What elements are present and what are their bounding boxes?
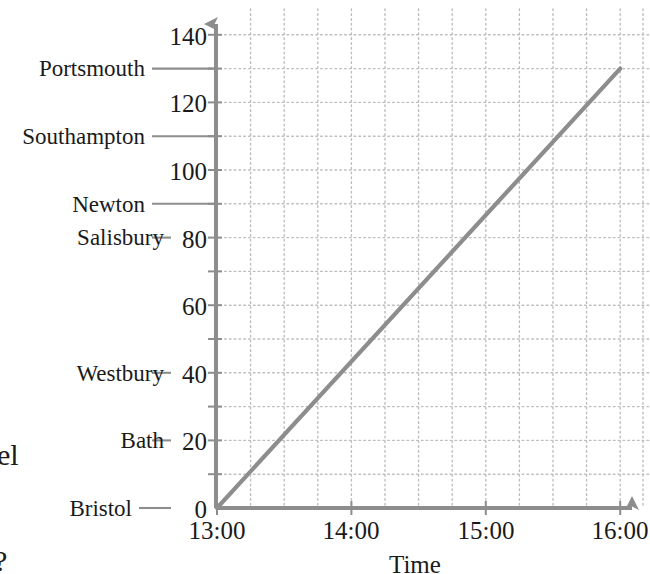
y-tick-label-60: 60 <box>182 294 207 319</box>
chart-canvas: 0 20 40 60 80 100 120 140 Portsmouth Sou… <box>0 0 650 574</box>
station-label-portsmouth: Portsmouth <box>39 57 145 80</box>
y-tick-label-80: 80 <box>182 227 207 252</box>
x-tick-label-1600: 16:00 <box>560 518 650 543</box>
travel-graph-svg <box>0 0 650 574</box>
x-tick-label-1400: 14:00 <box>291 518 411 543</box>
clipped-text-fragment-bottom: ? <box>0 546 7 574</box>
y-tick-label-120: 120 <box>170 91 208 116</box>
clipped-text-fragment-left: el <box>0 440 19 470</box>
station-label-southampton: Southampton <box>22 125 145 148</box>
y-tick-label-40: 40 <box>182 362 207 387</box>
x-tick-label-1500: 15:00 <box>426 518 546 543</box>
y-tick-label-140: 140 <box>170 24 208 49</box>
station-label-salisbury: Salisbury <box>77 226 164 249</box>
station-label-newton: Newton <box>72 193 145 216</box>
horizontal-gridlines <box>215 35 650 474</box>
station-label-bristol: Bristol <box>69 497 132 520</box>
y-tick-label-100: 100 <box>170 159 208 184</box>
x-axis-title: Time <box>389 552 441 574</box>
y-tick-label-20: 20 <box>182 429 207 454</box>
station-label-westbury: Westbury <box>76 362 164 385</box>
station-label-bath: Bath <box>121 429 164 452</box>
x-tick-label-1300: 13:00 <box>157 518 277 543</box>
